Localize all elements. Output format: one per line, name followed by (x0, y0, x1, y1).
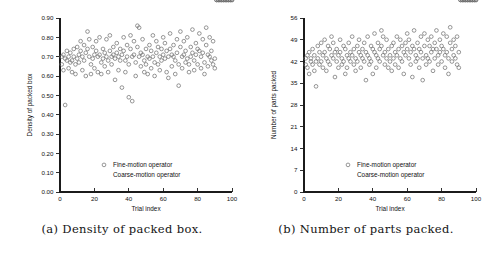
data-point (454, 44, 458, 48)
data-point (175, 51, 179, 55)
data-point (373, 32, 377, 36)
data-point (151, 34, 155, 38)
data-point (380, 29, 384, 33)
y-tick-label: 0.60 (41, 72, 54, 79)
data-point (111, 45, 115, 49)
data-point (89, 72, 93, 76)
data-point (423, 44, 427, 48)
y-tick-label: 35 (291, 79, 298, 86)
data-point (405, 32, 409, 36)
data-point (393, 63, 397, 67)
scatter-plot-b: 0714212835424956020406080100Trial indexN… (244, 0, 488, 215)
data-point (395, 35, 399, 39)
legend-label: Coarse-motion operator (113, 171, 181, 179)
data-point (72, 55, 76, 59)
data-point (84, 51, 88, 55)
data-point (455, 35, 459, 39)
data-point (385, 38, 389, 42)
data-point (165, 70, 169, 74)
data-point (457, 66, 461, 70)
x-tick-label: 60 (160, 195, 167, 202)
data-point (137, 55, 141, 59)
data-point (316, 57, 320, 61)
data-point (144, 63, 148, 67)
data-point (101, 57, 105, 61)
data-point (173, 59, 177, 63)
x-tick-label: 0 (58, 195, 62, 202)
data-point (204, 26, 208, 30)
y-tick-label: 0.30 (41, 130, 54, 137)
data-point (160, 47, 164, 51)
data-point (93, 66, 97, 70)
data-point (312, 69, 316, 73)
data-point (331, 41, 335, 45)
data-point (407, 57, 411, 61)
data-point (416, 41, 420, 45)
data-point (376, 41, 380, 45)
data-point (149, 49, 153, 53)
data-point (343, 47, 347, 51)
data-point (307, 72, 311, 76)
y-tick-label: 21 (291, 123, 298, 130)
data-point (172, 43, 176, 47)
data-point (127, 95, 131, 99)
data-point (325, 69, 329, 73)
data-point (113, 57, 117, 61)
data-point (77, 53, 81, 57)
data-point (323, 50, 327, 54)
data-point (161, 35, 165, 39)
data-point (381, 35, 385, 39)
data-point (355, 60, 359, 64)
data-point (457, 50, 461, 54)
data-point (374, 66, 378, 70)
data-point (170, 64, 174, 68)
data-point (154, 39, 158, 43)
data-point (352, 63, 356, 67)
y-tick-label: 0.70 (41, 53, 54, 60)
data-point (386, 47, 390, 51)
data-point (411, 75, 415, 79)
data-point (330, 35, 334, 39)
data-point (117, 55, 121, 59)
data-point (120, 86, 124, 90)
data-point (129, 47, 133, 51)
data-point (115, 41, 119, 45)
data-point (369, 60, 373, 64)
y-tick-label: 0.20 (41, 150, 54, 157)
y-tick-label: 0.80 (41, 34, 54, 41)
data-point (187, 63, 191, 67)
data-point (94, 39, 98, 43)
data-point (167, 76, 171, 80)
data-point (409, 63, 413, 67)
data-point (113, 78, 117, 82)
data-point (211, 63, 215, 67)
data-point (141, 37, 145, 41)
data-point (409, 50, 413, 54)
data-point (362, 60, 366, 64)
data-point (87, 37, 91, 41)
data-point (180, 66, 184, 70)
data-point (98, 35, 102, 39)
data-point (345, 66, 349, 70)
data-point (75, 45, 79, 49)
data-point (441, 32, 445, 36)
data-point (428, 60, 432, 64)
data-point (312, 53, 316, 57)
data-point (101, 47, 105, 51)
data-point (82, 59, 86, 63)
data-point (168, 47, 172, 51)
data-point (343, 72, 347, 76)
data-point (189, 45, 193, 49)
scatter-plot-a: 0.000.100.200.300.400.500.600.700.800.90… (0, 0, 244, 215)
data-point (433, 57, 437, 61)
data-point (364, 78, 368, 82)
data-point (148, 43, 152, 47)
data-point (404, 53, 408, 57)
data-point (132, 39, 136, 43)
y-tick-label: 0.50 (41, 92, 54, 99)
data-point (74, 72, 78, 76)
data-point (385, 57, 389, 61)
legend-b: Fine-motion operatorCoarse-motion operat… (346, 161, 425, 179)
data-point (443, 66, 447, 70)
legend-label: Coarse-motion operator (357, 171, 425, 179)
